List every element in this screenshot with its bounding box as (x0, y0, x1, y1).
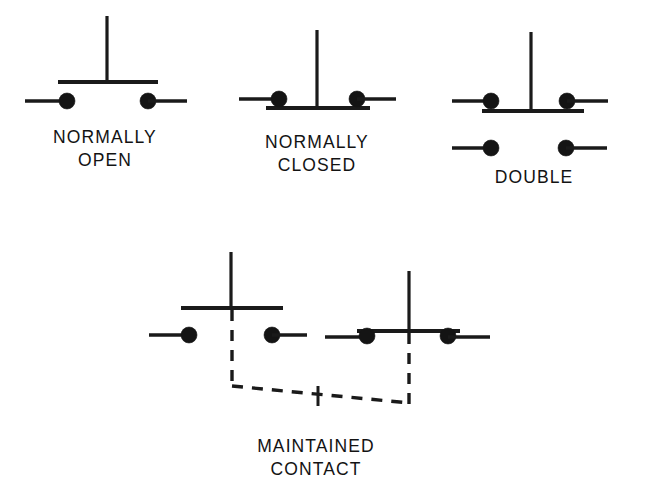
mc-caption-line1: MAINTAINED (257, 436, 375, 456)
symbol-normally-open: NORMALLY OPEN (25, 16, 187, 170)
schematic-canvas: NORMALLY OPEN NORMALLY CLOSED (0, 0, 649, 496)
nc-left-terminal-dot (271, 91, 287, 107)
no-caption-line1: NORMALLY (53, 127, 157, 147)
mc-link-horizontal (232, 386, 410, 403)
symbol-normally-closed: NORMALLY CLOSED (239, 30, 396, 175)
switch-symbols-diagram: NORMALLY OPEN NORMALLY CLOSED (0, 0, 649, 496)
nc-caption-line2: CLOSED (278, 155, 357, 175)
nc-caption-line1: NORMALLY (265, 132, 369, 152)
mc-left-pole (149, 252, 307, 343)
double-caption-line1: DOUBLE (495, 167, 574, 187)
symbol-double: DOUBLE (452, 32, 608, 187)
no-caption-line2: OPEN (78, 150, 132, 170)
symbol-maintained-contact: MAINTAINED CONTACT (149, 252, 490, 479)
double-upper-left-terminal-dot (483, 93, 499, 109)
mc-right-inner-terminal-dot (359, 328, 375, 344)
double-lower-left-terminal-dot (483, 140, 499, 156)
no-left-terminal-dot (59, 93, 75, 109)
mc-mechanical-linkage (232, 310, 410, 406)
mc-left-outer-terminal-dot (181, 327, 197, 343)
mc-caption-line2: CONTACT (271, 459, 362, 479)
